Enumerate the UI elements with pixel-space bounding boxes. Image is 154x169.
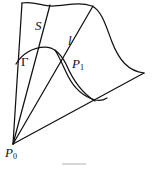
figure-canvas (0, 0, 154, 169)
ray-lower-boundary (13, 73, 144, 144)
ray-left-boundary (13, 3, 22, 144)
point-label-p0: P0 (5, 146, 17, 159)
point-label-p1: P1 (72, 57, 84, 70)
curve-label-gamma: Γ (21, 55, 29, 68)
region-label-s: S (35, 19, 42, 32)
ray-second (13, 5, 50, 144)
figure-root: P0 P1 S l Γ (0, 0, 154, 169)
ray-label-l: l (68, 34, 72, 47)
caption-smudge (62, 163, 86, 165)
ray-l (13, 6, 93, 144)
